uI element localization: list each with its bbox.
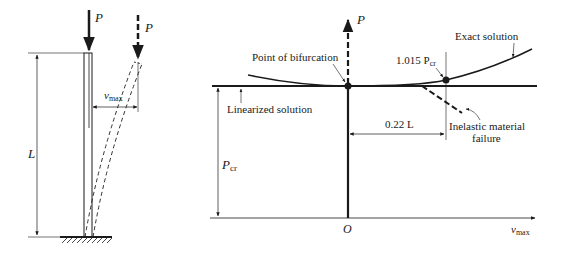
bifurcation-point xyxy=(345,83,352,90)
column xyxy=(84,53,92,237)
pcr-label: Pcr xyxy=(221,157,237,173)
bifurcation-label: Point of bifurcation xyxy=(252,51,339,63)
linearized-label: Linearized solution xyxy=(227,103,313,115)
x-axis-label: vmax xyxy=(511,223,530,237)
ratio-label: 1.015 Pcr xyxy=(396,54,436,68)
load-deflection-plot: vmax P O Pcr 0.22 L Point of bifurcation xyxy=(210,12,537,237)
buckling-diagram: P P L vmax vmax P O Pcr xyxy=(0,0,562,256)
length-label: L xyxy=(27,146,35,161)
exact-label: Exact solution xyxy=(455,30,519,42)
deflected-load-label: P xyxy=(144,20,153,35)
y-axis-label: P xyxy=(356,12,365,27)
origin-label: O xyxy=(343,222,352,236)
column-figure: P P L vmax xyxy=(27,10,153,243)
inelastic-failure-line xyxy=(422,86,462,113)
inelastic-label-line1: Inelastic material xyxy=(449,120,525,132)
load-label: P xyxy=(94,10,103,25)
deflection-0-22L-label: 0.22 L xyxy=(385,118,414,130)
deflection-label: vmax xyxy=(104,89,123,103)
inelastic-label-line2: failure xyxy=(472,132,501,144)
